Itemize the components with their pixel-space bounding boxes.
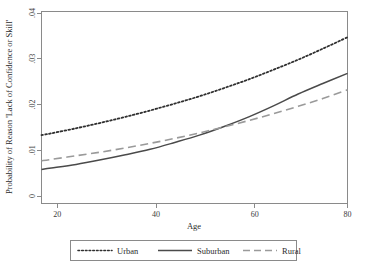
y-axis-tick-labels: .04 .03 .02 .01 0 — [28, 8, 37, 198]
plot-frame — [42, 12, 348, 204]
legend-label-urban: Urban — [117, 246, 139, 256]
x-tick-label: 80 — [344, 210, 352, 219]
chart-figure: .04 .03 .02 .01 0 Probability of Reason … — [0, 0, 366, 267]
series-group — [42, 37, 348, 169]
y-tick-label: .02 — [28, 100, 37, 110]
chart-svg: .04 .03 .02 .01 0 Probability of Reason … — [0, 0, 366, 267]
x-tick-label: 20 — [53, 210, 61, 219]
y-axis-ticks — [37, 13, 41, 196]
y-tick-label: 0 — [28, 194, 37, 198]
y-tick-label: .04 — [28, 8, 37, 18]
y-tick-label: .03 — [28, 54, 37, 64]
x-axis-title: Age — [187, 221, 201, 231]
legend-label-suburban: Suburban — [197, 246, 230, 256]
series-line-suburban — [42, 73, 348, 169]
x-tick-label: 60 — [251, 210, 259, 219]
x-axis-tick-labels: 20 40 60 80 — [53, 210, 351, 219]
legend-label-rural: Rural — [282, 246, 302, 256]
y-axis-title: Probability of Reason 'Lack of Confidenc… — [4, 19, 14, 194]
x-tick-label: 40 — [152, 210, 160, 219]
y-tick-label: .01 — [28, 145, 37, 155]
x-axis-ticks — [57, 204, 347, 209]
series-line-urban — [42, 37, 348, 135]
